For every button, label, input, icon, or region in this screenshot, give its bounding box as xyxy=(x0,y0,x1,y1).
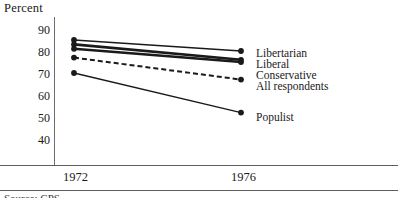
series-label-all-respondents: All respondents xyxy=(256,80,329,92)
data-point-conservative-end xyxy=(238,59,244,65)
data-point-all-respondents-end xyxy=(238,77,244,83)
x-tick-label-1976: 1976 xyxy=(231,170,256,184)
data-point-populist-start xyxy=(71,70,77,76)
source-note: Source: CPS xyxy=(4,192,60,198)
data-point-libertarian-end xyxy=(238,48,244,54)
axis-rule-top xyxy=(0,165,398,166)
data-point-all-respondents-start xyxy=(71,55,77,61)
series-plot-layer xyxy=(0,0,398,198)
data-point-conservative-start xyxy=(71,46,77,52)
chart-container: Percent 90 80 70 60 50 40 Libertarian Li… xyxy=(0,0,398,198)
series-line-populist xyxy=(74,73,241,113)
data-point-populist-end xyxy=(238,110,244,116)
series-line-liberal xyxy=(74,44,241,59)
axis-rule-bottom xyxy=(0,190,398,191)
series-label-populist: Populist xyxy=(256,111,294,123)
x-tick-label-1972: 1972 xyxy=(63,170,88,184)
